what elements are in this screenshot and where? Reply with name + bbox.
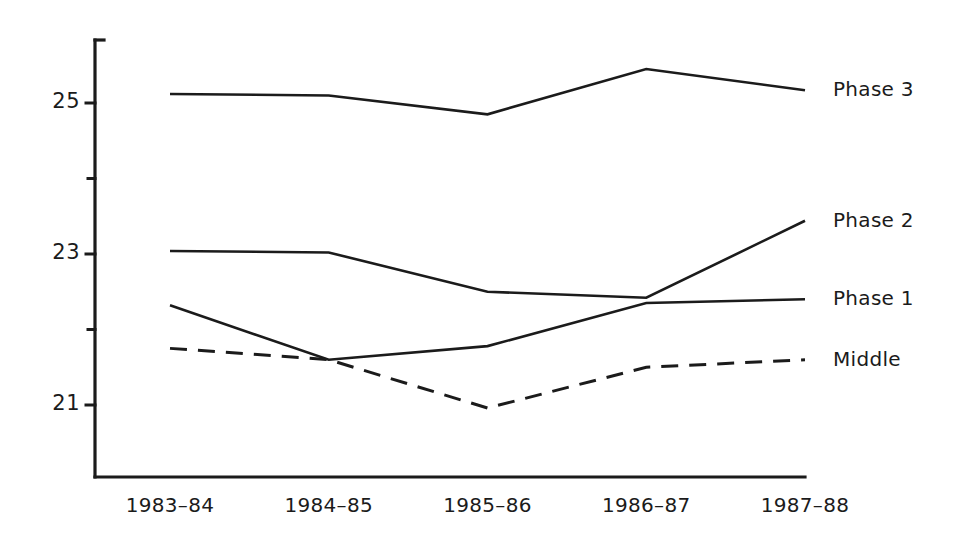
x-category-label-5: 1987–88 [761, 493, 849, 517]
chart-page: 212325 1983–841984–851985–861986–871987–… [0, 0, 954, 555]
series-line-phase-2 [170, 221, 805, 298]
series-label-phase-3: Phase 3 [833, 77, 914, 101]
y-tick-label-21: 21 [30, 391, 80, 415]
series-line-middle [170, 348, 805, 408]
series-label-phase-1: Phase 1 [833, 286, 914, 310]
y-tick-label-25: 25 [30, 89, 80, 113]
x-category-label-1: 1983–84 [126, 493, 214, 517]
x-category-label-3: 1985–86 [443, 493, 531, 517]
line-chart-canvas [0, 0, 954, 555]
series-label-phase-2: Phase 2 [833, 208, 914, 232]
y-tick-label-23: 23 [30, 240, 80, 264]
series-label-middle: Middle [833, 347, 901, 371]
x-category-label-2: 1984–85 [285, 493, 373, 517]
x-category-label-4: 1986–87 [602, 493, 690, 517]
data-series-layer [170, 69, 805, 408]
series-line-phase-1 [170, 299, 805, 359]
axis-lines [95, 40, 805, 477]
series-line-phase-3 [170, 69, 805, 114]
